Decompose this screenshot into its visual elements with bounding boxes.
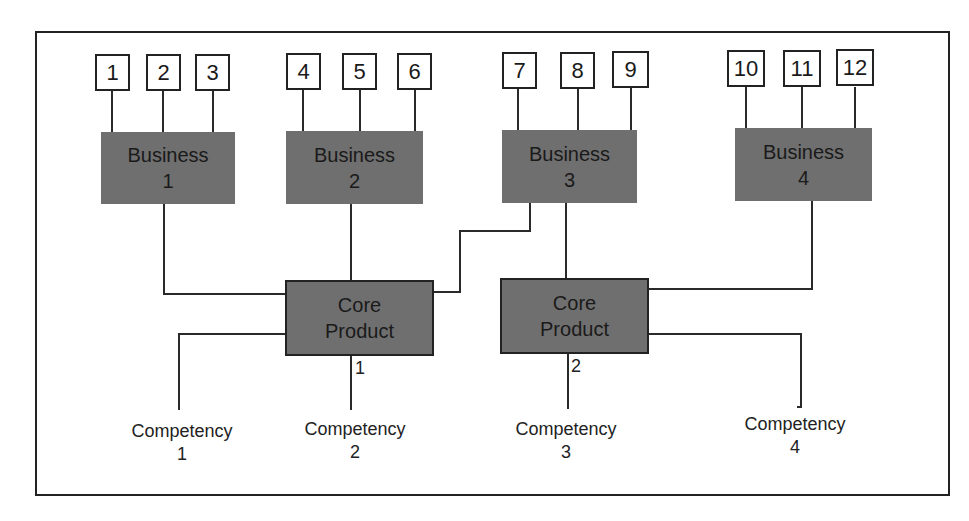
product-label: 7 xyxy=(513,58,525,84)
core-product-box-1: Core Product xyxy=(285,280,434,356)
business-number: 2 xyxy=(349,168,360,194)
business-number: 1 xyxy=(162,168,173,194)
product-box-1: 1 xyxy=(95,54,130,91)
core-product-number-1: 1 xyxy=(355,358,365,379)
link-core-2-competency-4 xyxy=(648,334,801,407)
competency-number: 3 xyxy=(486,441,646,464)
core-product-label-line2: Product xyxy=(325,318,394,344)
core-competency-diagram: 1 2 3 4 5 6 7 8 9 10 11 12 Business 1 Bu… xyxy=(0,0,969,521)
product-label: 11 xyxy=(791,56,814,82)
product-box-12: 12 xyxy=(836,49,874,86)
competency-label: Competency xyxy=(486,418,646,441)
product-box-2: 2 xyxy=(146,54,181,91)
link-core-1-competency-1 xyxy=(179,334,285,410)
product-label: 1 xyxy=(106,60,118,86)
product-box-5: 5 xyxy=(342,53,377,90)
product-label: 10 xyxy=(734,56,758,82)
business-box-3: Business 3 xyxy=(502,130,637,203)
competency-number: 2 xyxy=(275,441,435,464)
product-label: 2 xyxy=(157,60,169,86)
product-label: 5 xyxy=(353,59,365,85)
link-business-1-core-1 xyxy=(164,204,285,294)
competency-2: Competency 2 xyxy=(275,418,435,464)
product-box-10: 10 xyxy=(727,50,765,87)
business-label: Business xyxy=(314,142,395,168)
competency-3: Competency 3 xyxy=(486,418,646,464)
core-product-number-2: 2 xyxy=(571,356,581,377)
competency-label: Competency xyxy=(102,420,262,443)
business-label: Business xyxy=(763,139,844,165)
product-label: 4 xyxy=(297,59,309,85)
product-box-6: 6 xyxy=(397,53,432,90)
business-label: Business xyxy=(127,142,208,168)
core-product-box-2: Core Product xyxy=(500,278,649,354)
product-label: 12 xyxy=(843,55,867,81)
competency-number: 1 xyxy=(102,443,262,466)
link-business-4-core-2 xyxy=(648,201,812,289)
product-box-11: 11 xyxy=(783,50,821,87)
core-product-label-line2: Product xyxy=(540,316,609,342)
competency-number: 4 xyxy=(715,436,875,459)
business-number: 4 xyxy=(798,165,809,191)
competency-1: Competency 1 xyxy=(102,420,262,466)
business-label: Business xyxy=(529,141,610,167)
core-product-label-line1: Core xyxy=(338,292,381,318)
competency-label: Competency xyxy=(275,418,435,441)
business-box-2: Business 2 xyxy=(286,131,423,204)
business-box-4: Business 4 xyxy=(735,128,872,201)
product-label: 3 xyxy=(206,60,218,86)
product-label: 8 xyxy=(571,58,583,84)
core-product-label-line1: Core xyxy=(553,290,596,316)
business-number: 3 xyxy=(564,167,575,193)
product-box-9: 9 xyxy=(612,51,649,88)
product-label: 6 xyxy=(408,59,420,85)
business-box-1: Business 1 xyxy=(101,132,235,204)
product-box-8: 8 xyxy=(560,52,595,89)
product-box-4: 4 xyxy=(286,53,321,90)
product-box-3: 3 xyxy=(195,54,230,91)
competency-4: Competency 4 xyxy=(715,413,875,459)
product-label: 9 xyxy=(624,57,636,83)
competency-label: Competency xyxy=(715,413,875,436)
product-box-7: 7 xyxy=(502,52,537,89)
